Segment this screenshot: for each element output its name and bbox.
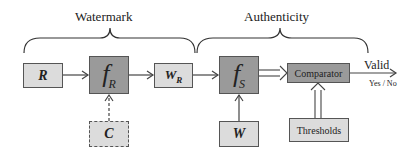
watermark-authenticity-diagram: Watermark Authenticity R fR C WR fS W Co… — [0, 0, 418, 154]
authenticity-brace — [197, 28, 368, 53]
valid-label: Valid — [364, 58, 389, 73]
yes-no-label: Yes / No — [369, 79, 397, 88]
thresholds-label: Thresholds — [297, 125, 341, 136]
f-s-symbol: fS — [233, 61, 245, 90]
comparator-label: Comparator — [295, 68, 343, 79]
c-box: C — [89, 121, 129, 147]
c-label: C — [104, 126, 113, 142]
thresholds-box: Thresholds — [289, 118, 349, 142]
f-s-box: fS — [219, 56, 259, 94]
w-label: W — [233, 126, 245, 142]
w-r-label: WR — [165, 67, 183, 85]
f-r-box: fR — [89, 56, 129, 94]
w-box: W — [219, 121, 259, 147]
watermark-label: Watermark — [75, 9, 132, 25]
authenticity-label: Authenticity — [244, 9, 309, 25]
comparator-box: Comparator — [287, 63, 350, 83]
w-r-box: WR — [154, 63, 193, 88]
r-label: R — [38, 68, 47, 84]
f-r-symbol: fR — [102, 61, 116, 90]
watermark-brace — [24, 28, 195, 53]
r-box: R — [23, 63, 63, 88]
